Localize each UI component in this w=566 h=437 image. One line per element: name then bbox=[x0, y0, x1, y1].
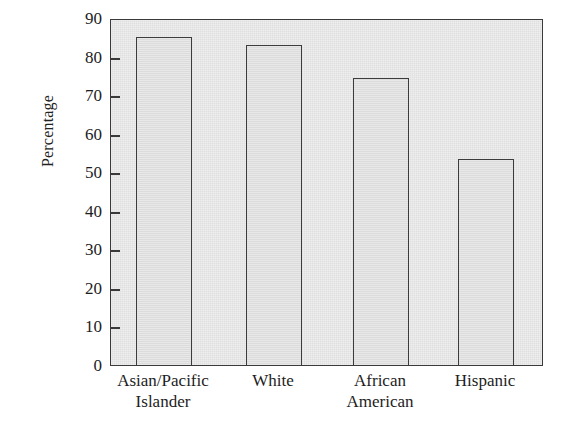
plot-area bbox=[110, 19, 543, 366]
x-tick-label-4: Hispanic bbox=[390, 370, 566, 391]
bar-3 bbox=[353, 78, 409, 365]
y-tick-label: 70 bbox=[56, 87, 102, 104]
y-tick-mark bbox=[111, 173, 120, 175]
bar-1 bbox=[136, 37, 192, 365]
y-tick-label: 80 bbox=[56, 49, 102, 66]
y-tick-mark bbox=[111, 289, 120, 291]
bar-fill-texture bbox=[137, 38, 191, 365]
y-tick-mark bbox=[111, 250, 120, 252]
y-tick-label: 40 bbox=[56, 203, 102, 220]
y-tick-label: 60 bbox=[56, 126, 102, 143]
y-tick-mark bbox=[111, 135, 120, 137]
y-tick-mark bbox=[111, 212, 120, 214]
y-tick-label: 90 bbox=[56, 10, 102, 27]
bar-fill-texture bbox=[459, 160, 513, 365]
x-tick-label-line2: American bbox=[285, 391, 475, 412]
y-tick-mark bbox=[111, 58, 120, 60]
x-tick-label-line1: Hispanic bbox=[455, 371, 515, 390]
bar-2 bbox=[246, 45, 302, 365]
y-tick-label: 20 bbox=[56, 280, 102, 297]
y-tick-label: 10 bbox=[56, 318, 102, 335]
y-tick-label: 30 bbox=[56, 241, 102, 258]
bar-fill-texture bbox=[247, 46, 301, 365]
y-tick-mark bbox=[111, 96, 120, 98]
y-tick-mark bbox=[111, 327, 120, 329]
bar-fill-texture bbox=[354, 79, 408, 365]
y-axis-title: Percentage bbox=[39, 51, 57, 211]
x-tick-label-line2: Islander bbox=[68, 391, 258, 412]
bar-chart: Percentage 9080706050403020100 Asian/Pac… bbox=[0, 0, 566, 437]
x-axis-tick-labels: Asian/PacificIslanderWhiteAfricanAmerica… bbox=[0, 370, 566, 434]
bar-4 bbox=[458, 159, 514, 365]
y-tick-label: 50 bbox=[56, 164, 102, 181]
